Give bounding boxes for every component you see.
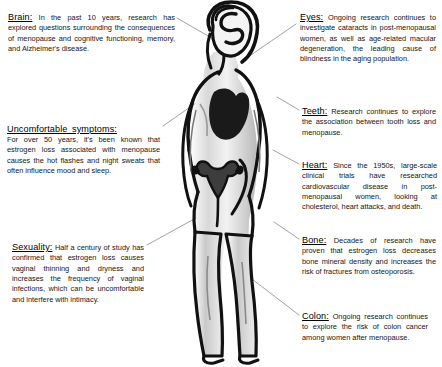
callout-sexuality-body: Half a century of study has confirmed th… xyxy=(12,243,144,304)
callout-teeth-heading: Teeth: xyxy=(302,106,327,116)
callout-bone-heading: Bone: xyxy=(302,235,326,245)
infographic-page: Brain: In the past 10 years, research ha… xyxy=(0,0,442,367)
callout-uncomfortable-symptoms-heading: Uncomfortable symptoms: xyxy=(7,124,160,134)
callout-brain: Brain: In the past 10 years, research ha… xyxy=(8,12,175,54)
vaginal-canal xyxy=(217,198,218,226)
hair-strand-left xyxy=(207,34,211,68)
callout-heart-heading: Heart: xyxy=(302,160,327,170)
leg-right xyxy=(226,234,256,356)
callout-colon: Colon: Ongoing research continues to exp… xyxy=(302,311,428,343)
callout-heart: Heart: Since the 1950s, large-scale clin… xyxy=(302,160,437,213)
callout-uncomfortable-symptoms: Uncomfortable symptoms:For over 50 years… xyxy=(7,124,160,176)
callout-sexuality: Sexuality: Half a century of study has c… xyxy=(12,242,144,305)
callout-eyes-heading: Eyes: xyxy=(300,12,323,22)
callout-uncomfortable-symptoms-body: For over 50 years, it's been known that … xyxy=(7,135,160,175)
callout-brain-heading: Brain: xyxy=(8,12,32,22)
callout-teeth: Teeth: Research continues to explore the… xyxy=(302,106,436,138)
callout-eyes: Eyes: Ongoing research continues to inve… xyxy=(300,12,436,65)
callout-bone: Bone: Decades of research have proven th… xyxy=(302,235,436,277)
callout-brain-body: In the past 10 years, research has explo… xyxy=(8,13,175,53)
leg-left xyxy=(194,232,222,356)
callout-sexuality-heading: Sexuality: xyxy=(12,242,52,252)
callout-colon-heading: Colon: xyxy=(302,311,329,321)
female-body-illustration xyxy=(152,0,312,367)
